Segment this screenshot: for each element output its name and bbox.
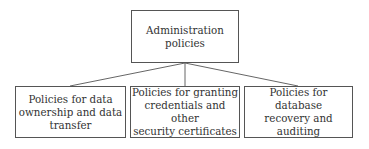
child-2-line-1: Policies for granting <box>131 86 239 99</box>
child-node-recovery-auditing: Policies for database recovery and audit… <box>244 86 353 138</box>
child-3-line-2: recovery and auditing <box>245 112 352 138</box>
root-node-line-1: Administration <box>146 24 224 37</box>
child-1-line-2: ownership and data <box>19 106 122 119</box>
connector-right <box>185 63 298 86</box>
root-node-line-2: policies <box>146 37 224 50</box>
child-3-line-1: Policies for database <box>245 86 352 112</box>
child-1-line-3: transfer <box>19 119 122 132</box>
child-node-data-ownership: Policies for data ownership and data tra… <box>15 86 126 138</box>
root-node-administration-policies: Administration policies <box>131 10 239 63</box>
child-1-line-1: Policies for data <box>19 93 122 106</box>
child-node-credentials: Policies for granting credentials and ot… <box>130 86 240 138</box>
child-2-line-2: credentials and other <box>131 99 239 125</box>
connector-left <box>70 63 185 86</box>
child-2-line-3: security certificates <box>131 125 239 138</box>
